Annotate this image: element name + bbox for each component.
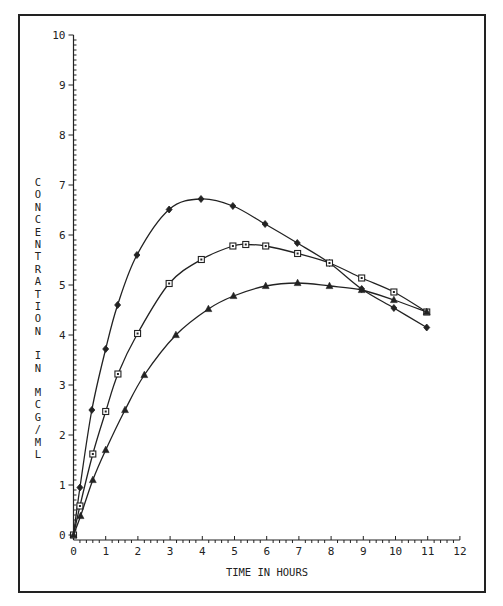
square-marker-dot bbox=[117, 373, 119, 375]
y-label-char: M bbox=[35, 436, 41, 448]
y-label-char: C bbox=[35, 213, 41, 225]
y-tick-label: 10 bbox=[52, 29, 65, 42]
y-label-char: N bbox=[35, 238, 41, 250]
square-marker-dot bbox=[232, 245, 234, 247]
y-label-char: R bbox=[35, 263, 42, 275]
x-tick-label: 12 bbox=[453, 545, 466, 558]
y-tick-label: 5 bbox=[59, 279, 66, 292]
y-label-char: O bbox=[35, 188, 41, 200]
square-marker-dot bbox=[361, 277, 363, 279]
diamond-marker bbox=[230, 203, 236, 210]
triangle-marker bbox=[122, 406, 129, 412]
y-tick-label: 6 bbox=[59, 229, 66, 242]
axes: 0123456789100123456789101112 bbox=[52, 29, 466, 558]
y-label-char: N bbox=[35, 362, 41, 374]
diamond-marker bbox=[198, 196, 204, 203]
triangle-marker bbox=[89, 476, 96, 482]
chart-frame bbox=[19, 15, 485, 592]
square-marker-dot bbox=[393, 291, 395, 293]
data-series bbox=[70, 196, 430, 539]
x-axis-label: TIME IN HOURS bbox=[226, 566, 308, 578]
square-marker-dot bbox=[328, 262, 330, 264]
x-tick-label: 0 bbox=[70, 545, 77, 558]
diamond-marker bbox=[77, 484, 83, 491]
diamond-marker bbox=[262, 221, 268, 228]
y-label-char: A bbox=[35, 275, 42, 287]
series-diamond bbox=[71, 196, 430, 539]
y-label-char: / bbox=[35, 423, 41, 435]
y-label-char: G bbox=[35, 411, 41, 423]
y-label-char: O bbox=[35, 312, 41, 324]
y-tick-label: 0 bbox=[59, 529, 66, 542]
square-marker-dot bbox=[200, 259, 202, 261]
x-tick-label: 9 bbox=[360, 545, 367, 558]
diamond-marker bbox=[391, 305, 397, 312]
y-label-char: I bbox=[35, 349, 41, 361]
diamond-marker bbox=[424, 324, 430, 331]
y-tick-label: 3 bbox=[59, 379, 66, 392]
x-tick-label: 5 bbox=[231, 545, 238, 558]
chart: 0123456789100123456789101112 TIME IN HOU… bbox=[0, 0, 503, 606]
y-label-char: N bbox=[35, 325, 41, 337]
y-tick-label: 9 bbox=[59, 79, 66, 92]
y-label-char: C bbox=[35, 398, 41, 410]
curve-square bbox=[74, 244, 427, 535]
y-label-char: M bbox=[35, 386, 41, 398]
y-label-char: L bbox=[35, 448, 41, 460]
triangle-marker bbox=[102, 446, 109, 452]
curve-diamond bbox=[74, 199, 427, 535]
diamond-marker bbox=[294, 240, 300, 247]
square-marker-dot bbox=[168, 283, 170, 285]
x-tick-label: 4 bbox=[199, 545, 206, 558]
y-tick-label: 4 bbox=[59, 329, 66, 342]
y-label-char: T bbox=[35, 250, 42, 262]
y-label-char: I bbox=[35, 300, 41, 312]
square-marker-dot bbox=[265, 245, 267, 247]
diamond-marker bbox=[89, 407, 95, 414]
x-tick-label: 8 bbox=[328, 545, 335, 558]
square-marker-dot bbox=[137, 333, 139, 335]
y-label-char: N bbox=[35, 201, 41, 213]
triangle-marker bbox=[205, 305, 212, 311]
square-marker-dot bbox=[245, 244, 247, 246]
x-tick-label: 1 bbox=[102, 545, 109, 558]
square-marker-dot bbox=[92, 453, 94, 455]
y-tick-label: 8 bbox=[59, 129, 66, 142]
x-tick-label: 2 bbox=[135, 545, 142, 558]
x-tick-label: 7 bbox=[296, 545, 303, 558]
series-triangle bbox=[70, 279, 430, 537]
x-tick-label: 11 bbox=[421, 545, 434, 558]
y-label-char: E bbox=[35, 226, 41, 238]
x-tick-label: 3 bbox=[167, 545, 174, 558]
square-marker-dot bbox=[79, 505, 81, 507]
diamond-marker bbox=[103, 346, 109, 353]
square-marker-dot bbox=[105, 411, 107, 413]
y-axis-label: CONCENTRATIONINMCG/ML bbox=[35, 176, 42, 460]
x-tick-label: 10 bbox=[389, 545, 402, 558]
diamond-marker bbox=[134, 252, 140, 259]
diamond-marker bbox=[115, 302, 121, 309]
x-tick-label: 6 bbox=[263, 545, 270, 558]
y-tick-label: 7 bbox=[59, 179, 66, 192]
y-label-char: T bbox=[35, 288, 42, 300]
y-label-char: C bbox=[35, 176, 41, 188]
y-tick-label: 1 bbox=[59, 479, 66, 492]
square-marker-dot bbox=[297, 253, 299, 255]
y-tick-label: 2 bbox=[59, 429, 66, 442]
